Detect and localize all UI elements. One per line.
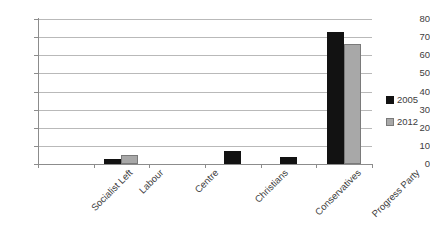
y-tick-label: 0 <box>400 159 430 168</box>
bar-group <box>38 19 94 164</box>
x-tick-label: Christians <box>252 167 290 205</box>
y-tick-label: 50 <box>400 68 430 77</box>
legend-label: 2012 <box>397 117 418 126</box>
bar-chart: 80706050403020100 Socialist LeftLabourCe… <box>0 0 430 229</box>
x-tick-label: Labour <box>137 167 166 196</box>
bar-2005 <box>280 157 297 164</box>
plot-area <box>38 19 372 164</box>
bar-2012 <box>344 44 361 164</box>
bar-group <box>205 19 261 164</box>
bar-group <box>149 19 205 164</box>
legend-swatch-icon <box>386 118 394 126</box>
y-tick-label: 60 <box>400 50 430 59</box>
y-tick-label: 10 <box>400 141 430 150</box>
x-tick-label: Conservatives <box>313 167 363 217</box>
bar-2012 <box>121 155 138 164</box>
x-tick-label: Socialist Left <box>88 167 134 213</box>
x-tick-mark <box>372 164 373 168</box>
legend-swatch-icon <box>386 96 394 104</box>
y-tick-label: 80 <box>400 14 430 23</box>
bar-2005 <box>327 32 344 164</box>
bar-2005 <box>224 151 241 164</box>
legend-item[interactable]: 2012 <box>386 117 418 126</box>
x-tick-label: Centre <box>192 167 220 195</box>
legend-label: 2005 <box>397 95 418 104</box>
y-axis-line <box>38 18 39 165</box>
legend-item[interactable]: 2005 <box>386 95 418 104</box>
chart-legend: 20052012 <box>386 95 418 139</box>
x-axis-labels: Socialist LeftLabourCentreChristiansCons… <box>38 167 372 229</box>
bar-group <box>94 19 150 164</box>
bar-group <box>261 19 317 164</box>
bar-group <box>316 19 372 164</box>
x-tick-label: Progress Party <box>369 167 421 219</box>
y-tick-label: 70 <box>400 32 430 41</box>
